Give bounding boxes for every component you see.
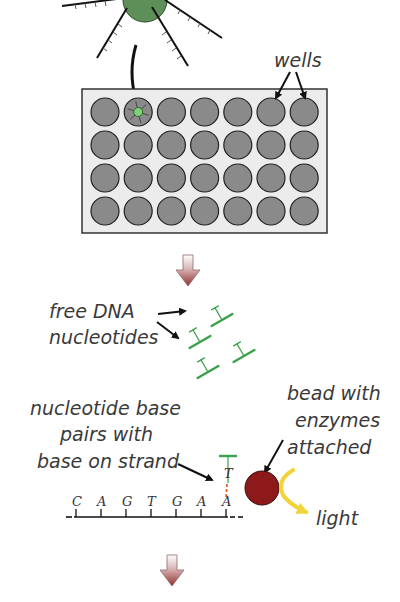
- well: [191, 164, 219, 192]
- well: [224, 197, 252, 225]
- well: [157, 98, 185, 126]
- strand-base: T: [147, 494, 157, 509]
- free-dna-label-line2: nucleotides: [49, 326, 159, 348]
- well: [91, 98, 119, 126]
- paired-nucleotide: T: [219, 456, 237, 498]
- wells-label: wells: [274, 49, 322, 71]
- well: [157, 197, 185, 225]
- free-dna-arrow-2: [157, 322, 178, 338]
- strand-base: A: [196, 494, 206, 509]
- free-nucleotides: [183, 302, 255, 378]
- well: [224, 164, 252, 192]
- pyrosequencing-diagram: wells free DNA nucleotides n: [0, 0, 400, 602]
- light-arrow: [281, 470, 306, 512]
- down-arrow-step-2: [160, 555, 184, 586]
- well: [124, 197, 152, 225]
- nucleotide-icon: [183, 324, 211, 348]
- down-arrow-step-1: [176, 255, 200, 286]
- strand-base: C: [72, 494, 82, 509]
- strand-bases: CAGTGAA: [72, 494, 231, 517]
- well: [157, 131, 185, 159]
- strand-base: A: [96, 494, 106, 509]
- enzyme-bead: [245, 471, 279, 505]
- well: [91, 197, 119, 225]
- well: [257, 98, 285, 126]
- well: [224, 98, 252, 126]
- paired-base: T: [224, 466, 234, 481]
- well: [290, 197, 318, 225]
- well: [91, 164, 119, 192]
- well: [91, 131, 119, 159]
- pairing-arrow: [178, 464, 212, 480]
- bead-label-line3: attached: [287, 436, 372, 458]
- bead-label-line2: enzymes: [295, 409, 380, 431]
- well-plate: [82, 89, 327, 233]
- well: [191, 197, 219, 225]
- strand-base: G: [172, 494, 182, 509]
- free-dna-label-line1: free DNA: [49, 300, 135, 322]
- strand-base: G: [122, 494, 132, 509]
- well: [124, 164, 152, 192]
- well: [290, 131, 318, 159]
- well: [191, 131, 219, 159]
- well: [224, 131, 252, 159]
- light-label: light: [316, 507, 360, 529]
- well: [290, 98, 318, 126]
- bead-arrow: [265, 440, 283, 472]
- well: [257, 164, 285, 192]
- nucleotide-icon: [191, 354, 219, 378]
- bead-in-well: [134, 108, 143, 117]
- well: [290, 164, 318, 192]
- free-dna-arrow-1: [158, 311, 185, 314]
- well: [191, 98, 219, 126]
- pairing-label-line3: base on strand: [37, 450, 180, 472]
- bead-with-dna-strands: [62, 0, 222, 100]
- well: [257, 131, 285, 159]
- pairing-label-line1: nucleotide base: [30, 397, 181, 419]
- bead-label-line1: bead with: [287, 382, 381, 404]
- pairing-label-line2: pairs with: [59, 423, 153, 445]
- well: [124, 131, 152, 159]
- well: [257, 197, 285, 225]
- nucleotide-icon: [205, 302, 233, 326]
- dna-strand: CAGTGAA: [66, 494, 243, 517]
- well: [157, 164, 185, 192]
- nucleotide-icon: [227, 338, 255, 362]
- dna-bead: [123, 0, 167, 22]
